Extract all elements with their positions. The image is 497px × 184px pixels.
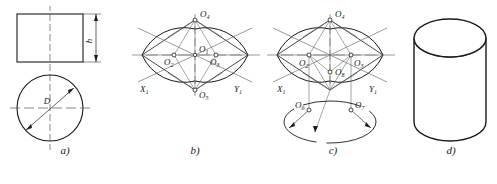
label-o1: O1 — [199, 44, 209, 55]
caption-d: d) — [431, 144, 471, 156]
label-o7: O7 — [355, 100, 366, 111]
height-arrow-bottom — [94, 55, 98, 62]
construction-lines — [277, 20, 383, 90]
label-o3: O3 — [354, 58, 364, 69]
centre-o8-marker — [328, 70, 332, 74]
label-axis-x1: X1 — [139, 84, 149, 95]
arrow-o7 — [365, 122, 371, 128]
caption-c: c) — [313, 144, 353, 156]
panel-a-drawing: D h — [0, 0, 130, 160]
caption-a: a) — [45, 144, 85, 156]
centre-o1-marker — [193, 53, 197, 57]
panel-b: O1 O2 O3 O4 O5 X1 Y1 b) — [130, 0, 265, 160]
label-o2: O2 — [299, 58, 309, 69]
centre-o4-marker — [328, 18, 332, 22]
height-arrow-top — [94, 14, 98, 21]
panel-b-drawing: O1 O2 O3 O4 O5 X1 Y1 — [130, 0, 265, 160]
panel-a: D h a) — [0, 0, 130, 160]
arrow-o6 — [289, 122, 295, 128]
label-axis-y1: Y1 — [369, 84, 377, 95]
diameter-arrow-end — [68, 88, 74, 94]
centre-o7-marker — [349, 108, 353, 112]
panel-c-drawing: O2 O3 O4 O8 O6 O7 X1 Y1 — [265, 0, 405, 160]
centre-o2-marker — [172, 53, 176, 57]
centre-o6-marker — [307, 108, 311, 112]
diameter-label: D — [43, 96, 51, 106]
centre-o4-marker — [193, 18, 197, 22]
label-o6: O6 — [295, 100, 305, 111]
arc-radius-arrows — [289, 110, 371, 132]
height-label: h — [84, 38, 94, 43]
diameter-arrow-start — [26, 124, 32, 130]
panel-d-drawing — [405, 0, 497, 160]
label-axis-y1: Y1 — [234, 84, 242, 95]
label-o2: O2 — [164, 57, 174, 68]
label-o4: O4 — [335, 9, 345, 20]
panel-d: d) — [405, 0, 497, 160]
caption-b: b) — [175, 144, 215, 156]
panel-c: O2 O3 O4 O8 O6 O7 X1 Y1 c) — [265, 0, 405, 160]
label-o3: O3 — [210, 57, 220, 68]
centre-o5-marker — [193, 88, 197, 92]
label-o4: O4 — [200, 9, 210, 20]
label-o5: O5 — [199, 90, 209, 101]
centre-o2-marker — [307, 53, 311, 57]
label-axis-x1: X1 — [276, 84, 286, 95]
cylinder-top-ellipse — [414, 19, 486, 57]
centre-o3-marker — [349, 53, 353, 57]
